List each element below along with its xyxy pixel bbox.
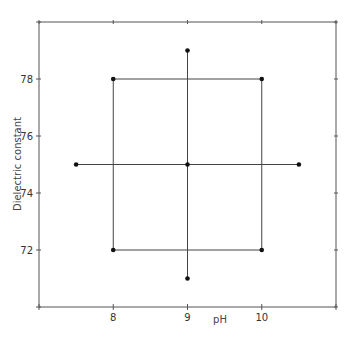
y-axis-label: Dielectric constant [12,117,23,211]
data-point [185,48,190,53]
x-tick-label: 10 [255,312,268,323]
x-tick-label: 9 [184,312,190,323]
data-point [74,162,79,167]
x-axis-label: pH [213,314,227,325]
y-tick-label: 72 [20,245,33,256]
data-point [259,77,264,82]
y-tick-label: 78 [20,74,33,85]
data-point [185,276,190,281]
x-tick-label: 8 [110,312,116,323]
data-point [185,162,190,167]
data-point [111,77,116,82]
data-point [297,162,302,167]
data-point [259,248,264,253]
data-point [111,248,116,253]
chart: 891072747678 pH Dielectric constant [0,0,348,338]
